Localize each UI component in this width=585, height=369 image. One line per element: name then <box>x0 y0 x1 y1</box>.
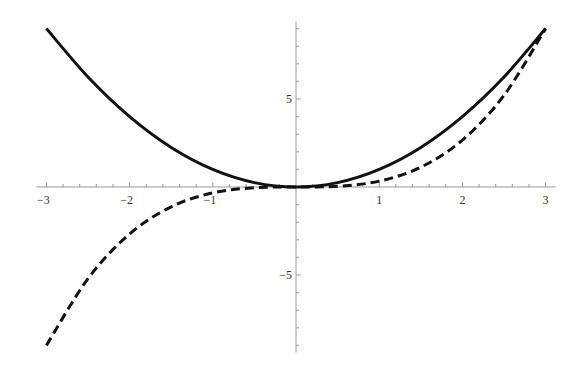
y-tick-label: 5 <box>286 92 292 106</box>
x-tick-label: 3 <box>543 193 549 207</box>
x-tick-label: 1 <box>376 193 382 207</box>
x-tick-label: −2 <box>120 193 133 207</box>
x-tick-label: −3 <box>37 193 50 207</box>
x-tick-label: 2 <box>459 193 465 207</box>
y-tick-label: −5 <box>279 268 292 282</box>
chart-canvas: −3−2−11235−5 <box>0 0 585 369</box>
